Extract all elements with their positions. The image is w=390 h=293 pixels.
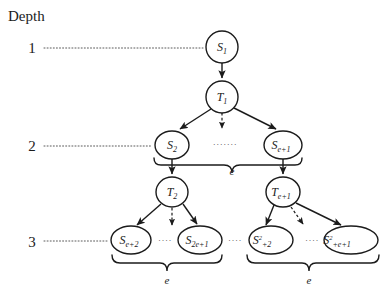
node-s2e1-sub: 2e+1: [192, 240, 209, 249]
ellipsis-level3-a: ····: [158, 235, 172, 245]
node-s2e1[interactable]: S2e+1: [178, 226, 222, 254]
node-t1[interactable]: T1: [206, 81, 238, 113]
edge-te1-dashed: [291, 207, 303, 224]
brace-level3-left-path: [112, 255, 222, 271]
node-se2-sub: e+2: [126, 240, 139, 249]
edge-t2-s2e1: [183, 204, 197, 224]
node-s1-sub: 1: [223, 47, 227, 56]
brace-label-level3-left: e: [165, 274, 170, 286]
tree-diagram: S1 T1 S2 Se+1 T2: [0, 0, 390, 293]
node-se2-2[interactable]: S2+2: [249, 226, 293, 254]
edge-t1-s2: [180, 109, 211, 129]
node-s1[interactable]: S1: [206, 31, 238, 63]
node-se2-e1[interactable]: S2+e+1: [323, 226, 378, 254]
depth-title: Depth: [8, 8, 45, 24]
edge-te1-se22: [266, 205, 274, 225]
node-se2-2-sub: +2: [262, 240, 271, 249]
edge-t2-se2: [137, 204, 161, 225]
diagram-canvas: S1 T1 S2 Se+1 T2: [0, 0, 390, 293]
node-se2-e1-sub: +e+1: [332, 240, 350, 249]
brace-level2-path: [154, 158, 302, 173]
node-te1-sub: e+1: [278, 192, 291, 201]
node-te1[interactable]: Te+1: [266, 177, 300, 207]
depth-label-1: 1: [28, 40, 36, 56]
node-s2-sub: 2: [173, 145, 177, 154]
brace-label-level2: e: [230, 165, 235, 177]
ellipsis-level2: ·······: [213, 139, 237, 149]
node-t2-sub: 2: [173, 192, 177, 201]
brace-level3-right-path: [247, 255, 379, 271]
node-se1[interactable]: Se+1: [264, 131, 302, 159]
node-t1-sub: 1: [223, 97, 227, 106]
depth-label-2: 2: [28, 138, 36, 154]
node-se2[interactable]: Se+2: [111, 226, 151, 254]
brace-label-level3-right: e: [307, 274, 312, 286]
ellipsis-level3-b: ····: [228, 235, 242, 245]
depth-label-3: 3: [28, 234, 36, 250]
edge-te1-se2e1: [296, 203, 341, 225]
node-s2[interactable]: S2: [155, 131, 189, 159]
node-t2[interactable]: T2: [156, 177, 188, 207]
edge-t1-se1: [234, 108, 276, 129]
node-se1-sub: e+1: [278, 145, 291, 154]
ellipsis-level3-c: ····: [305, 235, 319, 245]
